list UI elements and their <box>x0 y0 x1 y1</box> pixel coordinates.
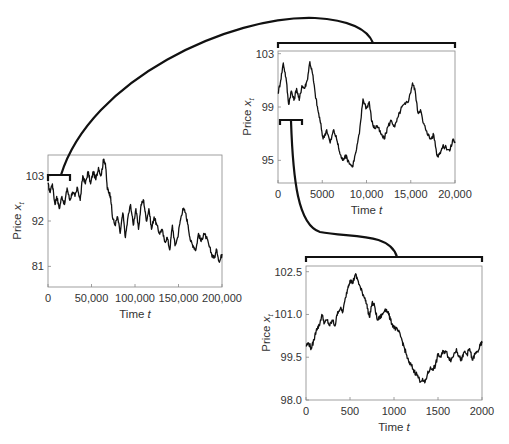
x-tick-label: 200,000 <box>202 292 242 304</box>
x-tick-label: 20,000 <box>438 188 472 200</box>
x-tick-label: 0 <box>45 292 51 304</box>
price-trace <box>306 274 482 383</box>
plot-frame <box>306 266 482 400</box>
x-tick-label: 500 <box>341 405 359 417</box>
x-axis-label: Time t <box>378 421 410 433</box>
chart-medium-timescale: 0500010,00015,00020,0001039995Time tPric… <box>241 48 472 216</box>
x-tick-label: 10,000 <box>350 188 384 200</box>
y-tick-label: 103 <box>256 48 274 60</box>
x-tick-label: 0 <box>303 405 309 417</box>
connector-long-to-medium <box>61 18 373 175</box>
y-tick-label: 95 <box>262 154 274 166</box>
y-axis-label: Price xt <box>260 314 275 352</box>
bracket-medium-chart <box>278 43 455 48</box>
x-axis-label: Time t <box>119 308 151 320</box>
price-trace <box>48 159 222 262</box>
y-tick-label: 101.0 <box>274 308 302 320</box>
x-tick-label: 0 <box>275 188 281 200</box>
x-tick-label: 100,000 <box>115 292 155 304</box>
bracket-short-chart <box>306 257 482 262</box>
x-tick-label: 1500 <box>426 405 450 417</box>
y-tick-label: 99.5 <box>281 351 302 363</box>
chart-short-timescale: 0500100015002000102.5101.099.598.0Time t… <box>260 266 494 433</box>
y-tick-label: 99 <box>262 101 274 113</box>
x-axis-label: Time t <box>351 204 383 216</box>
y-tick-label: 103 <box>26 170 44 182</box>
zoom-bracket-long <box>48 175 70 181</box>
x-tick-label: 150,000 <box>159 292 199 304</box>
y-axis-label: Price xt <box>11 202 26 240</box>
x-tick-label: 5000 <box>310 188 334 200</box>
x-tick-label: 2000 <box>470 405 494 417</box>
y-tick-label: 92 <box>32 215 44 227</box>
price-trace <box>278 62 455 167</box>
x-tick-label: 50,000 <box>75 292 109 304</box>
y-axis-label: Price xt <box>241 98 256 136</box>
plot-frame <box>278 51 455 183</box>
plot-frame <box>48 155 222 287</box>
chart-long-timescale: 050,000100,000150,000200,0001039281Time … <box>11 155 242 320</box>
y-tick-label: 81 <box>32 260 44 272</box>
fractal-price-figure: 050,000100,000150,000200,0001039281Time … <box>0 0 509 444</box>
y-tick-label: 102.5 <box>274 266 302 278</box>
x-tick-label: 1000 <box>382 405 406 417</box>
y-tick-label: 98.0 <box>281 394 302 406</box>
x-tick-label: 15,000 <box>394 188 428 200</box>
